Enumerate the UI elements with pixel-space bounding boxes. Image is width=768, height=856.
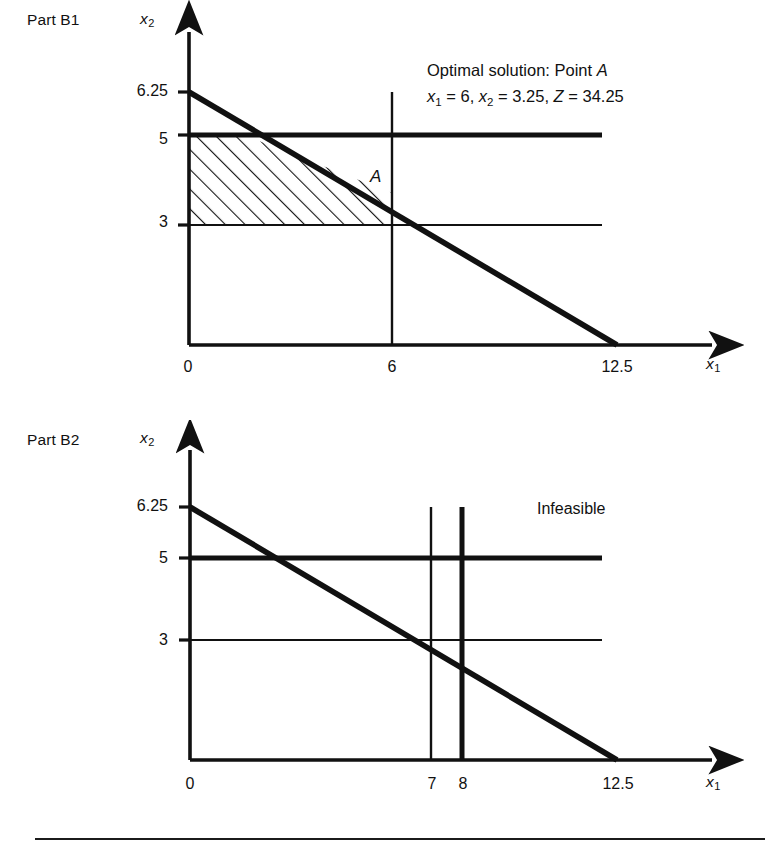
plot-area-b1 — [0, 0, 768, 420]
figure-root: Part B1 x2 x1 6.25 5 3 0 6 12.5 Optimal … — [0, 0, 768, 856]
chart-panel-part-b2: Part B2 x2 x1 6.25 5 3 0 7 8 12.5 Infeas… — [0, 420, 768, 820]
feasible-region-hatch-b1 — [189, 135, 392, 225]
plot-area-b2 — [0, 420, 768, 820]
chart-panel-part-b1: Part B1 x2 x1 6.25 5 3 0 6 12.5 Optimal … — [0, 0, 768, 420]
bottom-divider-rule — [35, 838, 765, 840]
objective-diagonal-line-b2 — [190, 507, 617, 760]
